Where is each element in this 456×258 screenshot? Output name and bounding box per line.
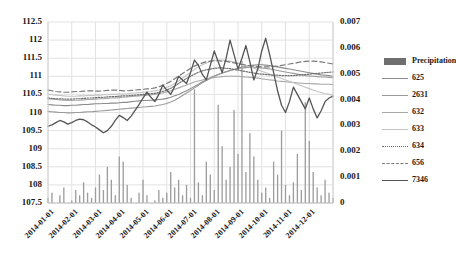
chart-legend: Precipitation62526316326336346567346 <box>382 52 456 188</box>
legend-item-label: 656 <box>412 158 424 167</box>
legend-line-icon <box>382 78 408 79</box>
legend-item-label: 2631 <box>412 90 428 99</box>
legend-bar-swatch-icon <box>382 56 408 66</box>
y-axis-tick-label: 108.5 <box>0 162 42 171</box>
legend-line-swatch-icon <box>382 73 408 83</box>
y-axis-right-tick-label: 0.001 <box>340 172 360 181</box>
legend-item-label: 625 <box>412 73 424 82</box>
y-axis-right-tick-label: 0.005 <box>340 69 360 78</box>
legend-item-633[interactable]: 633 <box>382 120 456 137</box>
legend-line-swatch-icon <box>382 107 408 117</box>
legend-line-icon <box>382 95 408 96</box>
y-axis-right-tick-label: 0.003 <box>340 120 360 129</box>
y-axis-right-tick-label: 0 <box>340 198 345 207</box>
y-axis-tick-label: 111.5 <box>0 53 42 62</box>
y-axis-tick-label: 111 <box>0 71 42 80</box>
y-axis-tick-label: 109 <box>0 144 42 153</box>
legend-line-swatch-icon <box>382 124 408 134</box>
legend-item-label: 633 <box>412 124 424 133</box>
y-axis-right-tick-label: 0.007 <box>340 17 360 26</box>
legend-line-icon <box>382 163 408 164</box>
legend-item-2631[interactable]: 2631 <box>382 86 456 103</box>
chart-root: 112.5112111.5111110.5110109.5109108.5108… <box>0 0 456 258</box>
legend-item-632[interactable]: 632 <box>382 103 456 120</box>
y-axis-right-tick-label: 0.006 <box>340 43 360 52</box>
y-axis-tick-label: 107.5 <box>0 198 42 207</box>
legend-item-625[interactable]: 625 <box>382 69 456 86</box>
legend-item-656[interactable]: 656 <box>382 154 456 171</box>
legend-item-label: 7346 <box>412 175 428 184</box>
precipitation-swatch-icon <box>384 58 406 65</box>
y-axis-tick-label: 108 <box>0 180 42 189</box>
y-axis-tick-label: 112 <box>0 35 42 44</box>
y-axis-right-tick-label: 0.004 <box>340 95 360 104</box>
legend-line-swatch-icon <box>382 141 408 151</box>
legend-item-precipitation[interactable]: Precipitation <box>382 52 456 69</box>
legend-line-icon <box>382 112 408 113</box>
y-axis-right-tick-label: 0.002 <box>340 146 360 155</box>
legend-item-634[interactable]: 634 <box>382 137 456 154</box>
legend-line-swatch-icon <box>382 158 408 168</box>
legend-item-label: 632 <box>412 107 424 116</box>
legend-line-icon <box>382 146 408 147</box>
legend-line-icon <box>382 180 408 181</box>
y-axis-tick-label: 109.5 <box>0 126 42 135</box>
legend-line-swatch-icon <box>382 90 408 100</box>
legend-line-swatch-icon <box>382 175 408 185</box>
y-axis-tick-label: 110 <box>0 108 42 117</box>
y-axis-tick-label: 112.5 <box>0 17 42 26</box>
gridlines <box>48 22 333 203</box>
legend-item-7346[interactable]: 7346 <box>382 171 456 188</box>
legend-line-icon <box>382 129 408 130</box>
legend-item-label: 634 <box>412 141 424 150</box>
legend-item-label: Precipitation <box>412 56 456 65</box>
y-axis-tick-label: 110.5 <box>0 89 42 98</box>
